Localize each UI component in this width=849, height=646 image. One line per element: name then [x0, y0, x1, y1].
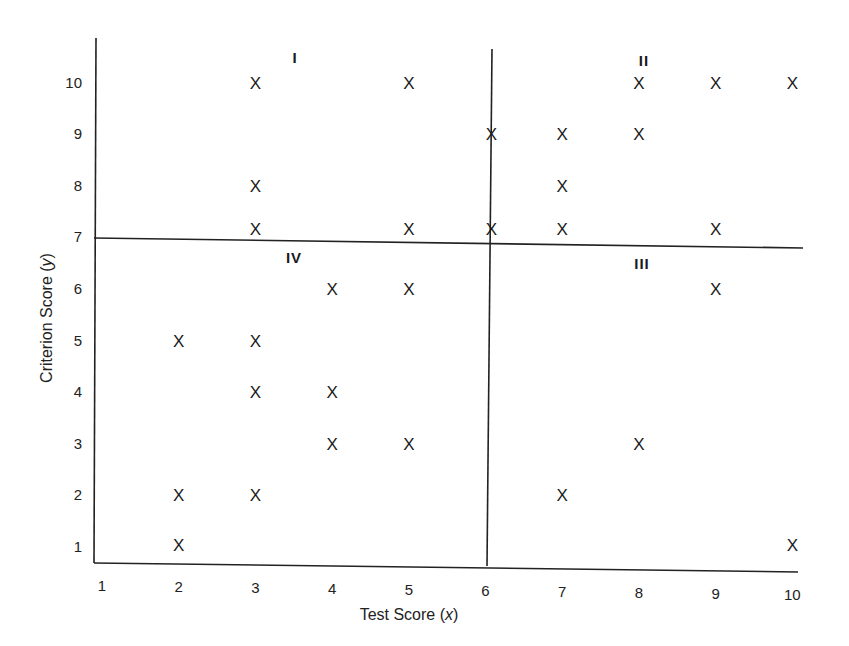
data-point-marker: X — [173, 536, 184, 555]
x-tick-label: 9 — [711, 585, 719, 602]
scatter-chart: 12345678910 12345678910 XXXXXXXXXXXXXXXX… — [0, 0, 849, 646]
x-tick-label: 8 — [635, 584, 643, 601]
data-point-marker: X — [250, 220, 261, 239]
data-point-marker: X — [557, 220, 568, 239]
x-tick-label: 5 — [405, 581, 413, 598]
data-point-marker: X — [787, 74, 798, 93]
x-tick-label: 3 — [251, 579, 259, 596]
data-point-marker: X — [326, 435, 337, 454]
data-point-marker: X — [787, 536, 798, 555]
y-tick-label: 5 — [74, 332, 82, 349]
x-tick-label: 1 — [98, 577, 106, 594]
y-tick-label: 2 — [74, 486, 82, 503]
data-point-marker: X — [557, 125, 568, 144]
criterion-cutoff-line — [94, 238, 803, 248]
data-point-marker: X — [403, 74, 414, 93]
x-tick-label: 10 — [784, 586, 801, 603]
y-axis-title: Criterion Score (y) — [38, 253, 55, 383]
y-tick-label: 9 — [74, 125, 82, 142]
data-point-marker: X — [250, 383, 261, 402]
data-point-marker: X — [403, 435, 414, 454]
data-points: XXXXXXXXXXXXXXXXXXXXXXXXXXXXXX — [173, 74, 798, 555]
data-point-marker: X — [633, 435, 644, 454]
y-tick-label: 10 — [65, 74, 82, 91]
data-point-marker: X — [710, 74, 721, 93]
data-point-marker: X — [250, 74, 261, 93]
quadrant-label-ii: II — [639, 52, 649, 69]
axes — [94, 38, 798, 572]
y-tick-label: 7 — [74, 228, 82, 245]
y-tick-labels: 12345678910 — [65, 74, 82, 555]
data-point-marker: X — [486, 125, 497, 144]
data-point-marker: X — [710, 220, 721, 239]
data-point-marker: X — [173, 332, 184, 351]
data-point-marker: X — [557, 486, 568, 505]
quadrant-label-iv: IV — [286, 249, 302, 266]
x-tick-label: 6 — [481, 582, 489, 599]
x-tick-label: 2 — [175, 578, 183, 595]
data-point-marker: X — [557, 177, 568, 196]
x-axis-title: Test Score (x) — [360, 606, 459, 623]
data-point-marker: X — [173, 486, 184, 505]
y-tick-label: 3 — [74, 435, 82, 452]
quadrant-label-iii: III — [634, 255, 650, 272]
data-point-marker: X — [710, 280, 721, 299]
data-point-marker: X — [633, 74, 644, 93]
data-point-marker: X — [250, 486, 261, 505]
x-axis-line — [94, 563, 798, 572]
data-point-marker: X — [403, 220, 414, 239]
data-point-marker: X — [486, 220, 497, 239]
y-tick-label: 4 — [74, 383, 82, 400]
y-tick-label: 1 — [74, 538, 82, 555]
cut-lines — [94, 49, 803, 566]
data-point-marker: X — [250, 177, 261, 196]
y-axis-line — [94, 38, 96, 563]
data-point-marker: X — [633, 125, 644, 144]
x-tick-label: 4 — [328, 580, 336, 597]
data-point-marker: X — [403, 280, 414, 299]
data-point-marker: X — [326, 280, 337, 299]
data-point-marker: X — [250, 332, 261, 351]
quadrant-labels: IIIIIIIV — [286, 49, 650, 272]
y-tick-label: 6 — [74, 280, 82, 297]
x-tick-labels: 12345678910 — [98, 577, 801, 603]
quadrant-label-i: I — [292, 49, 297, 66]
data-point-marker: X — [326, 383, 337, 402]
x-tick-label: 7 — [558, 583, 566, 600]
y-tick-label: 8 — [74, 177, 82, 194]
